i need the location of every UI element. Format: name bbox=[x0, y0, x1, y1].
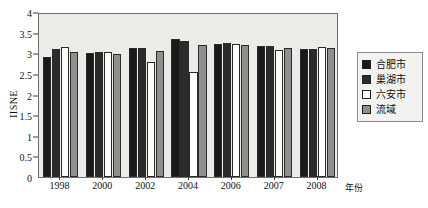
bar-流域-2004 bbox=[198, 45, 206, 177]
bar-巢湖市-2006 bbox=[223, 43, 231, 177]
legend-swatch-icon bbox=[362, 60, 371, 69]
bar-六安市-1998 bbox=[61, 47, 69, 177]
plot-area bbox=[38, 13, 338, 178]
legend-swatch-icon bbox=[362, 75, 371, 84]
legend: 合肥市巢湖市六安市流域 bbox=[357, 52, 423, 122]
x-tick-label: 2007 bbox=[264, 180, 284, 191]
x-axis: 1998200020022004200620072008 bbox=[38, 180, 338, 200]
legend-item-巢湖市: 巢湖市 bbox=[362, 72, 419, 87]
legend-item-合肥市: 合肥市 bbox=[362, 57, 419, 72]
bar-巢湖市-2002 bbox=[138, 48, 146, 177]
legend-label: 巢湖市 bbox=[376, 75, 406, 85]
bar-合肥市-2002 bbox=[129, 48, 137, 177]
bar-合肥市-2004 bbox=[171, 39, 179, 177]
y-tick-label: 3 bbox=[27, 49, 32, 60]
bar-六安市-2004 bbox=[189, 72, 197, 177]
bar-流域-2000 bbox=[113, 54, 121, 177]
legend-label: 六安市 bbox=[376, 90, 406, 100]
y-tick-label: 1 bbox=[27, 131, 32, 142]
chart-root: 00.511.522.533.54 IISNE 1998200020022004… bbox=[0, 0, 428, 208]
bar-六安市-2008 bbox=[318, 47, 326, 177]
y-tick-label: 2 bbox=[27, 90, 32, 101]
x-tick-mark bbox=[59, 176, 60, 180]
y-tick-label: 3.5 bbox=[20, 28, 33, 39]
x-tick-label: 1998 bbox=[49, 180, 69, 191]
bar-巢湖市-2007 bbox=[266, 46, 274, 177]
bar-合肥市-1998 bbox=[43, 57, 51, 177]
legend-label: 合肥市 bbox=[376, 60, 406, 70]
bar-合肥市-2000 bbox=[86, 53, 94, 177]
y-tick-label: 4 bbox=[27, 8, 32, 19]
x-tick-label: 2006 bbox=[221, 180, 241, 191]
x-tick-label: 2002 bbox=[135, 180, 155, 191]
x-tick-mark bbox=[231, 176, 232, 180]
x-tick-label: 2000 bbox=[92, 180, 112, 191]
bar-流域-2008 bbox=[327, 48, 335, 177]
legend-swatch-icon bbox=[362, 90, 371, 99]
bar-巢湖市-2008 bbox=[309, 49, 317, 177]
bar-合肥市-2007 bbox=[257, 46, 265, 177]
bar-巢湖市-1998 bbox=[52, 49, 60, 177]
legend-item-流域: 流域 bbox=[362, 102, 419, 117]
bar-流域-2006 bbox=[241, 45, 249, 177]
x-tick-mark bbox=[102, 176, 103, 180]
legend-item-六安市: 六安市 bbox=[362, 87, 419, 102]
legend-swatch-icon bbox=[362, 105, 371, 114]
legend-label: 流域 bbox=[376, 105, 396, 115]
y-tick-label: 0.5 bbox=[20, 152, 33, 163]
x-tick-mark bbox=[274, 176, 275, 180]
bar-六安市-2000 bbox=[104, 52, 112, 177]
bar-巢湖市-2000 bbox=[95, 52, 103, 177]
bar-合肥市-2008 bbox=[300, 49, 308, 177]
x-tick-mark bbox=[145, 176, 146, 180]
x-axis-title: 年份 bbox=[345, 181, 363, 194]
y-axis: 00.511.522.533.54 bbox=[0, 13, 38, 178]
x-tick-mark bbox=[188, 176, 189, 180]
bar-流域-2002 bbox=[156, 51, 164, 177]
y-tick-label: 1.5 bbox=[20, 111, 33, 122]
bar-流域-2007 bbox=[284, 48, 292, 177]
bar-六安市-2007 bbox=[275, 50, 283, 177]
bar-巢湖市-2004 bbox=[180, 41, 188, 177]
bar-六安市-2002 bbox=[147, 62, 155, 177]
x-tick-label: 2008 bbox=[307, 180, 327, 191]
bars-layer bbox=[39, 14, 337, 177]
x-tick-label: 2004 bbox=[178, 180, 198, 191]
bar-合肥市-2006 bbox=[214, 44, 222, 177]
y-tick-label: 0 bbox=[27, 173, 32, 184]
bar-流域-1998 bbox=[70, 52, 78, 177]
y-axis-title: IISNE bbox=[8, 90, 19, 118]
x-tick-mark bbox=[317, 176, 318, 180]
y-tick-label: 2.5 bbox=[20, 69, 33, 80]
bar-六安市-2006 bbox=[232, 44, 240, 177]
